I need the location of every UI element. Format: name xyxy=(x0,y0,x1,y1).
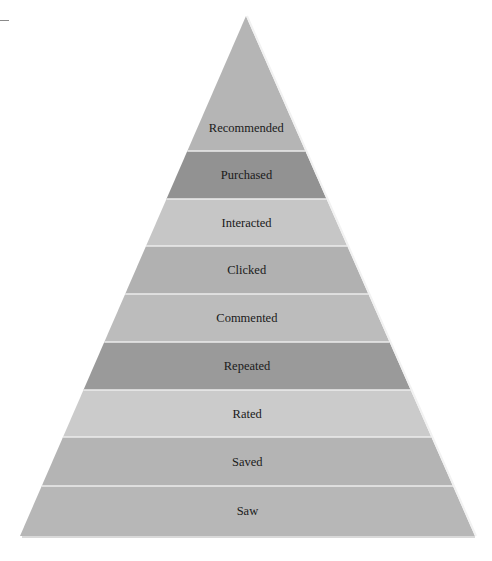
pyramid-apex xyxy=(208,16,285,104)
pyramid-diagram: RecommendedPurchasedInteractedClickedCom… xyxy=(0,0,492,561)
tier-label-recommended: Recommended xyxy=(209,121,285,135)
tier-label-commented: Commented xyxy=(216,311,278,325)
tier-label-interacted: Interacted xyxy=(222,216,273,230)
tier-label-clicked: Clicked xyxy=(227,263,267,277)
tier-label-rated: Rated xyxy=(233,407,263,421)
tier-label-purchased: Purchased xyxy=(221,168,273,182)
tier-label-saved: Saved xyxy=(232,455,263,469)
tier-label-saw: Saw xyxy=(237,504,259,518)
tier-label-repeated: Repeated xyxy=(224,359,271,373)
